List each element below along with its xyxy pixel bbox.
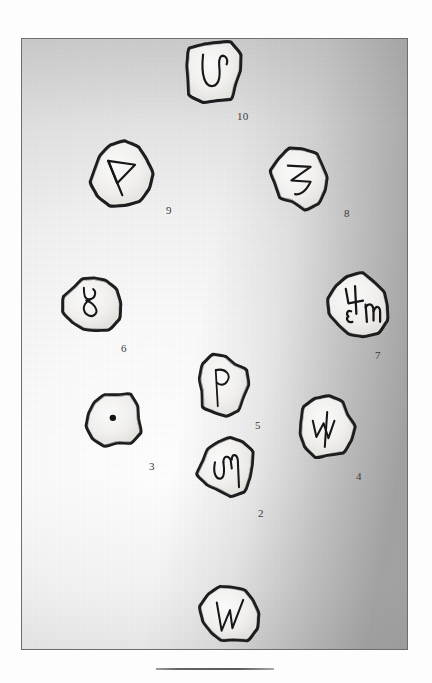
stone-5 — [197, 354, 249, 416]
stone-outline — [328, 273, 388, 337]
stone-9-label: 9 — [166, 205, 172, 216]
stone-4-label: 4 — [356, 471, 362, 482]
stone-10-label: 10 — [237, 111, 249, 122]
single-dot-mark-icon — [110, 415, 116, 421]
stone-6-label: 6 — [121, 343, 127, 354]
stone-6 — [63, 273, 121, 335]
plate-grain-texture — [22, 39, 407, 649]
stone-8-label: 8 — [344, 208, 350, 219]
stone-5-drawing — [197, 354, 249, 416]
stone-10 — [182, 38, 244, 105]
stone-9 — [89, 141, 153, 207]
stone-3 — [85, 390, 143, 448]
stone-8 — [271, 147, 331, 209]
stone-1 — [200, 582, 260, 646]
stone-6-drawing — [63, 273, 121, 335]
stone-2 — [197, 435, 257, 497]
stone-7-drawing — [326, 273, 392, 339]
stone-8-drawing — [271, 147, 331, 209]
stone-5-label: 5 — [255, 420, 261, 431]
stone-outline — [187, 42, 241, 103]
stone-7-label: 7 — [375, 350, 381, 361]
stone-4-drawing — [296, 396, 356, 458]
stone-1-drawing — [200, 582, 260, 646]
plate-page: 1098675342 — [0, 0, 432, 683]
stone-4 — [296, 396, 356, 458]
stone-3-label: 3 — [149, 461, 155, 472]
stone-2-label: 2 — [258, 508, 264, 519]
stone-10-drawing — [182, 38, 244, 105]
caption-rule — [156, 668, 274, 670]
stone-7 — [326, 273, 392, 339]
photographic-plate: 1098675342 — [21, 38, 408, 650]
stone-3-drawing — [85, 390, 143, 448]
stone-2-drawing — [197, 435, 257, 497]
stone-9-drawing — [89, 141, 153, 207]
